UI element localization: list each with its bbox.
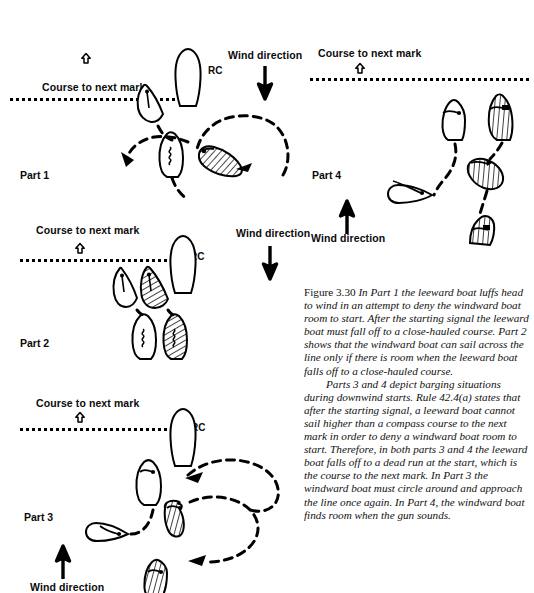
part3-scene [0,390,300,592]
wind-direction-label-part3: Wind direction [30,582,104,593]
part1-scene [0,30,300,210]
wind-direction-arrow-up-part4 [338,200,356,234]
wind-direction-arrow-up-part3 [54,545,72,579]
figure-number: Figure 3.30 [304,286,356,298]
part-label-1: Part 1 [20,170,49,181]
panel-part-2: Course to next mark RC Wind direction [0,210,300,370]
part-label-2: Part 2 [20,338,49,349]
figure-caption: Figure 3.30 In Part 1 the leeward boat l… [304,286,530,522]
caption-body-1: In Part 1 the leeward boat luffs head to… [304,286,529,377]
part-label-3: Part 3 [24,512,53,523]
panel-part-3: Course to next mark RC [0,390,300,592]
part4-scene [290,30,534,245]
caption-paragraph-1: Figure 3.30 In Part 1 the leeward boat l… [304,286,530,378]
panel-part-1: Course to next mark RC Wind direction [0,30,300,210]
wind-direction-label-part4: Wind direction [311,233,385,244]
caption-paragraph-2: Parts 3 and 4 depict barging situations … [304,378,530,522]
part-label-4: Part 4 [312,170,341,181]
panel-part-4: Course to next mark [290,30,534,245]
